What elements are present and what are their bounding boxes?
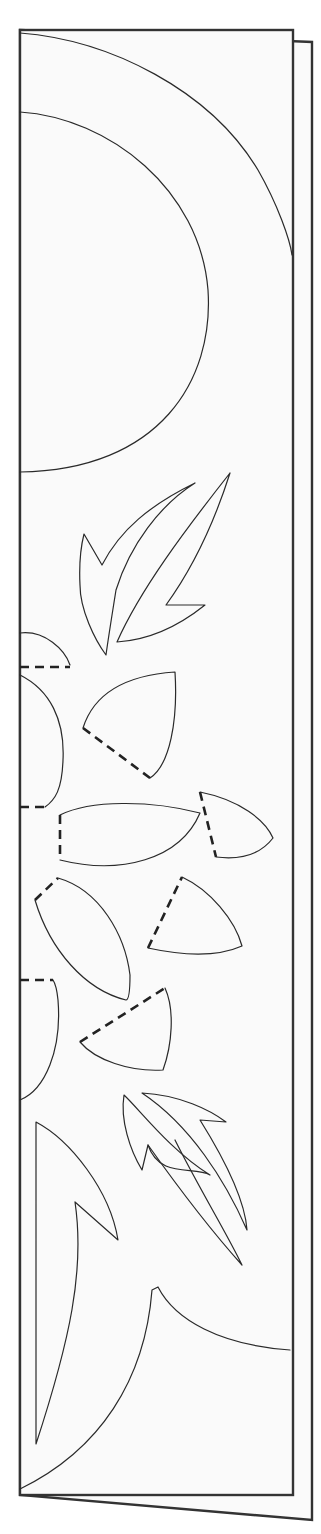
papercut-template: [0, 0, 321, 1534]
front-sheet: [20, 30, 293, 1495]
